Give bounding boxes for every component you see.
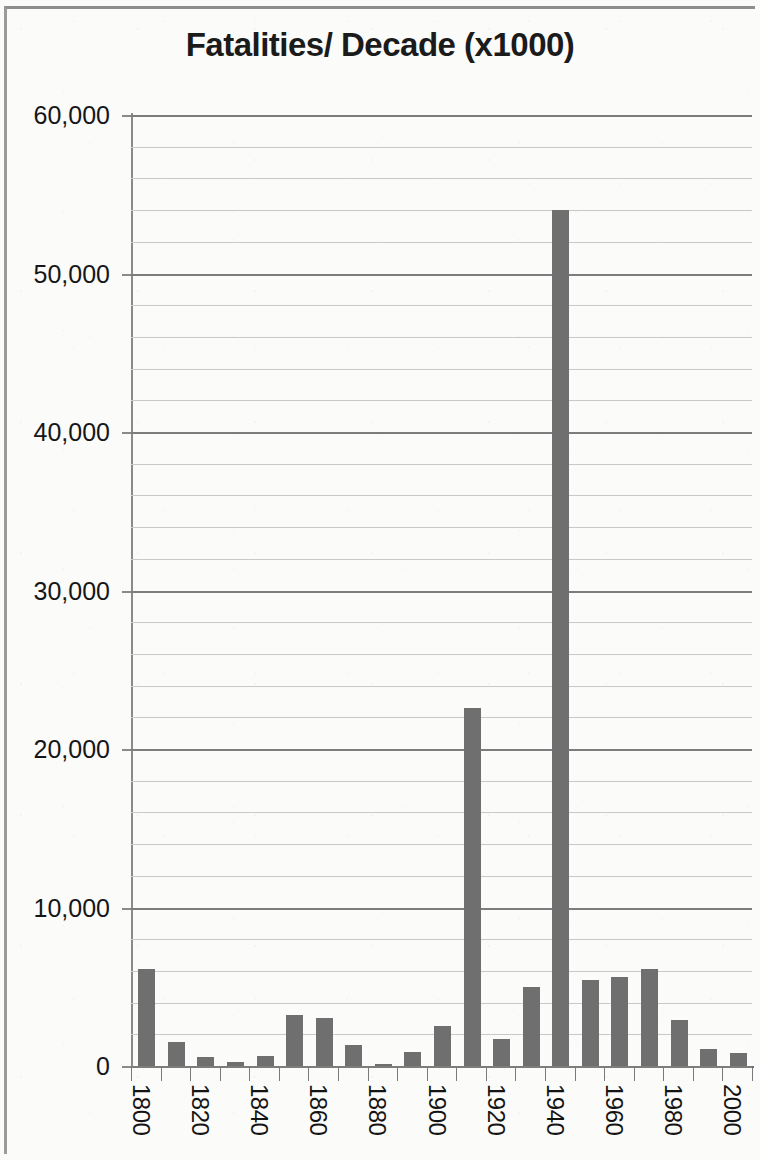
x-tick-mark [663, 1068, 664, 1081]
gridline-minor [131, 242, 752, 243]
x-tick-mark [752, 1068, 753, 1081]
x-axis-label: 1880 [363, 1084, 391, 1135]
gridline-minor [131, 400, 752, 401]
x-tick-mark [545, 1068, 546, 1081]
x-tick-mark [427, 1068, 428, 1081]
x-tick-mark [575, 1068, 576, 1081]
bar-1860 [316, 1018, 333, 1066]
gridline-major [131, 749, 752, 751]
gridline-major [131, 908, 752, 910]
y-axis-label: 50,000 [0, 259, 110, 288]
x-axis-label: 1940 [541, 1084, 569, 1135]
x-tick-mark [220, 1068, 221, 1081]
gridline-minor [131, 464, 752, 465]
gridline-minor [131, 305, 752, 306]
gridline-minor [131, 527, 752, 528]
x-axis-label: 2000 [718, 1084, 746, 1135]
bar-1940 [552, 210, 569, 1066]
y-axis-label: 40,000 [0, 418, 110, 447]
gridline-minor [131, 654, 752, 655]
bar-1830 [227, 1062, 244, 1066]
bar-1840 [257, 1056, 274, 1066]
x-axis-label: 1920 [482, 1084, 510, 1135]
bar-1990 [700, 1049, 717, 1066]
x-axis-label: 1960 [600, 1084, 628, 1135]
chart-title: Fatalities/ Decade (x1000) [0, 26, 760, 64]
gridline-minor [131, 210, 752, 211]
bar-1970 [641, 969, 658, 1066]
bar-1920 [493, 1039, 510, 1066]
gridline-minor [131, 559, 752, 560]
bar-1800 [138, 969, 155, 1066]
y-tick-mark [122, 591, 131, 593]
gridline-major [131, 1066, 752, 1068]
gridline-minor [131, 369, 752, 370]
scanned-chart-page: Fatalities/ Decade (x1000) 60,00050,0004… [0, 0, 760, 1160]
gridline-major [131, 591, 752, 593]
bar-1910 [464, 708, 481, 1066]
gridline-minor [131, 717, 752, 718]
x-tick-mark [131, 1068, 132, 1081]
x-tick-mark [693, 1068, 694, 1081]
x-tick-mark [456, 1068, 457, 1081]
x-axis-label: 1820 [186, 1084, 214, 1135]
gridline-minor [131, 812, 752, 813]
y-tick-mark [122, 432, 131, 434]
x-tick-mark [338, 1068, 339, 1081]
y-tick-mark [122, 749, 131, 751]
bar-2000 [730, 1053, 747, 1066]
y-tick-mark [122, 274, 131, 276]
bar-1880 [375, 1064, 392, 1066]
gridline-major [131, 274, 752, 276]
x-axis-label: 1980 [659, 1084, 687, 1135]
x-tick-mark [368, 1068, 369, 1081]
bar-1810 [168, 1042, 185, 1066]
gridline-minor [131, 495, 752, 496]
x-tick-mark [604, 1068, 605, 1081]
plot-area [131, 115, 752, 1066]
gridline-minor [131, 337, 752, 338]
gridline-major [131, 115, 752, 117]
gridline-minor [131, 844, 752, 845]
gridline-minor [131, 1003, 752, 1004]
y-tick-mark [122, 908, 131, 910]
gridline-minor [131, 939, 752, 940]
x-tick-mark [634, 1068, 635, 1081]
bar-1870 [345, 1045, 362, 1066]
x-tick-mark [249, 1068, 250, 1081]
y-axis-label: 20,000 [0, 735, 110, 764]
x-tick-mark [486, 1068, 487, 1081]
x-axis-label: 1860 [304, 1084, 332, 1135]
x-tick-mark [190, 1068, 191, 1081]
y-axis-label: 10,000 [0, 893, 110, 922]
gridline-major [131, 432, 752, 434]
bar-1930 [523, 987, 540, 1066]
bar-1960 [611, 977, 628, 1066]
x-tick-mark [515, 1068, 516, 1081]
x-tick-mark [397, 1068, 398, 1081]
y-axis-label: 60,000 [0, 101, 110, 130]
x-axis-label: 1900 [423, 1084, 451, 1135]
x-axis-label: 1840 [245, 1084, 273, 1135]
y-axis-label: 0 [0, 1052, 110, 1081]
gridline-minor [131, 971, 752, 972]
x-tick-mark [279, 1068, 280, 1081]
x-axis-label: 1800 [127, 1084, 155, 1135]
bar-1980 [671, 1020, 688, 1066]
y-tick-mark [122, 115, 131, 117]
gridline-minor [131, 622, 752, 623]
gridline-minor [131, 147, 752, 148]
x-tick-mark [161, 1068, 162, 1081]
gridline-minor [131, 781, 752, 782]
x-tick-mark [722, 1068, 723, 1081]
x-tick-mark [308, 1068, 309, 1081]
gridline-minor [131, 686, 752, 687]
bar-1850 [286, 1015, 303, 1066]
bar-1950 [582, 980, 599, 1066]
bar-1820 [197, 1057, 214, 1067]
gridline-minor [131, 178, 752, 179]
bar-1900 [434, 1026, 451, 1066]
gridline-minor [131, 876, 752, 877]
y-axis-label: 30,000 [0, 576, 110, 605]
bar-1890 [404, 1052, 421, 1066]
